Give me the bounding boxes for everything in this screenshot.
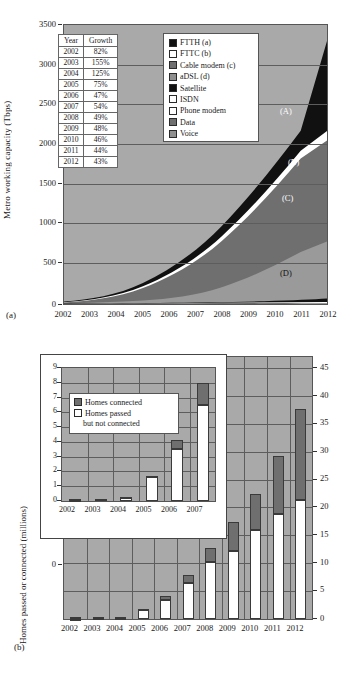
legend-item: Homes connected: [74, 398, 174, 408]
cell-year: 2006: [59, 91, 84, 102]
area-label-A: (A): [280, 106, 292, 116]
inset-bar-2006: [171, 440, 183, 501]
legend-label: Satellite: [180, 84, 206, 93]
legend-swatch-homes-connected: [74, 398, 82, 406]
panel-b: Homes passed or connected (millions): [0, 330, 360, 680]
legend-item: aDSL (d): [169, 72, 254, 81]
cell-year: 2010: [59, 135, 84, 146]
cell-growth: 44%: [84, 146, 118, 157]
inset-legend: Homes connected Homes passed but not con…: [69, 393, 179, 434]
area-label-D: (D): [280, 268, 292, 278]
legend-item: Data: [169, 118, 254, 127]
legend-label-continued: but not connected: [74, 419, 174, 429]
cell-year: 2008: [59, 113, 84, 124]
cell-growth: 47%: [84, 91, 118, 102]
cell-year: 2002: [59, 47, 84, 58]
table-header-growth: Growth: [84, 35, 118, 47]
legend-label: FTTC (b): [180, 49, 211, 58]
inset-ytick-0: 0: [43, 496, 57, 505]
panel-a-ytick-500: 500: [28, 258, 56, 267]
table-row: 200849%: [59, 113, 118, 124]
panel-a-ylabel: Metro working capacity (Tbps): [2, 60, 16, 260]
cell-year: 2004: [59, 69, 84, 80]
panel-b-ytick-left-0: 0: [34, 560, 56, 569]
panel-a-ytick-0: 0: [28, 300, 56, 309]
cell-growth: 75%: [84, 80, 118, 91]
table-row: 201144%: [59, 146, 118, 157]
cell-growth: 48%: [84, 124, 118, 135]
table-row: 200575%: [59, 80, 118, 91]
panel-a-xtick-2009: 2009: [235, 310, 263, 319]
cell-growth: 82%: [84, 47, 118, 58]
bar-2010: [250, 494, 261, 619]
bar-2009: [228, 522, 239, 620]
panel-b-ytick-right-25: 25: [320, 474, 342, 483]
panel-b-ytick-right-40: 40: [320, 391, 342, 400]
table-row: 201243%: [59, 157, 118, 168]
panel-a-xtick-2006: 2006: [155, 310, 183, 319]
cell-growth: 155%: [84, 58, 118, 69]
inset-ytick-7: 7: [43, 393, 57, 402]
legend-label: aDSL (d): [180, 72, 210, 81]
inset-plot-area: [61, 367, 216, 502]
panel-a-caption: (a): [6, 310, 16, 320]
panel-b-xtick-2012: 2012: [281, 624, 309, 633]
bar-2004: [115, 618, 126, 620]
inset-ytick-1: 1: [43, 481, 57, 490]
legend-label: ISDN: [180, 95, 199, 104]
table-row: 200282%: [59, 47, 118, 58]
panel-a-xtick-2010: 2010: [261, 310, 289, 319]
cell-growth: 125%: [84, 69, 118, 80]
legend-label: Data: [180, 118, 195, 127]
legend-swatch-fttc: [169, 50, 177, 58]
legend-label: FTTH (a): [180, 38, 211, 47]
area-label-B: (B): [288, 157, 299, 167]
legend-swatch-ftth: [169, 39, 177, 47]
panel-b-ytick-right-20: 20: [320, 502, 342, 511]
panel-b-ytick-right-30: 30: [320, 446, 342, 455]
inset-bar-2007: [197, 383, 209, 501]
legend-swatch-phone-modem: [169, 107, 177, 115]
bar-2011: [273, 456, 284, 619]
legend-label: Homes passed: [85, 409, 131, 419]
inset-bar-2005: [146, 476, 158, 501]
cell-year: 2011: [59, 146, 84, 157]
cell-year: 2003: [59, 58, 84, 69]
cell-year: 2007: [59, 102, 84, 113]
legend-label: Voice: [180, 129, 198, 138]
inset-ytick-6: 6: [43, 407, 57, 416]
inset-ytick-9: 9: [43, 363, 57, 372]
cell-growth: 43%: [84, 157, 118, 168]
inset-bar-2002: [69, 500, 81, 501]
legend-swatch-homes-passed: [74, 409, 82, 417]
inset-xtick-2005: 2005: [131, 505, 157, 514]
panel-a-ytick-1000: 1000: [28, 218, 56, 227]
table-header-year: Year: [59, 35, 84, 47]
legend-swatch-isdn: [169, 95, 177, 103]
panel-a-legend: FTTH (a) FTTC (b) Cable modem (c) aDSL (…: [163, 33, 259, 142]
panel-a-xtick-2005: 2005: [129, 310, 157, 319]
legend-item: Cable modem (c): [169, 61, 254, 70]
panel-a: Metro working capacity (Tbps) (: [0, 0, 360, 330]
panel-b-inset: 9 8 7 6 5 4 3 2 1 0 2002 2003 2004 2005: [40, 354, 227, 539]
panel-a-ytick-3500: 3500: [28, 20, 56, 29]
cell-growth: 54%: [84, 102, 118, 113]
legend-item: Homes passed: [74, 409, 174, 419]
panel-a-ytick-2500: 2500: [28, 99, 56, 108]
panel-b-ytick-right-10: 10: [320, 558, 342, 567]
legend-label: Homes connected: [85, 398, 142, 408]
inset-bar-2003: [95, 499, 107, 501]
inset-xtick-2003: 2003: [80, 505, 106, 514]
inset-xtick-2007: 2007: [182, 505, 208, 514]
inset-ytick-4: 4: [43, 437, 57, 446]
panel-b-ytick-right-35: 35: [320, 418, 342, 427]
inset-ytick-5: 5: [43, 422, 57, 431]
bar-2005: [138, 609, 149, 619]
panel-a-xtick-2008: 2008: [208, 310, 236, 319]
bar-2008: [205, 548, 216, 619]
panel-b-ytick-right-0: 0: [320, 614, 342, 623]
cell-year: 2012: [59, 157, 84, 168]
table-row: 2004125%: [59, 69, 118, 80]
panel-b-ytick-right-15: 15: [320, 530, 342, 539]
bar-2007: [183, 575, 194, 619]
